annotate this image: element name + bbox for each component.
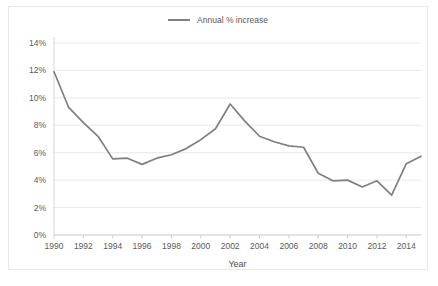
- y-axis-labels-group: 0%2%4%6%8%10%12%14%: [29, 38, 46, 240]
- axis-lines-group: [54, 37, 421, 235]
- x-axis-tick-label: 2008: [309, 241, 328, 251]
- plot-area: 0%2%4%6%8%10%12%14% 19901992199419961998…: [9, 7, 429, 271]
- y-axis-tick-label: 4%: [34, 175, 47, 185]
- x-axis-tick-label: 2014: [397, 241, 416, 251]
- y-axis-tick-label: 10%: [29, 93, 46, 103]
- tickmarks-group: [54, 235, 406, 239]
- x-axis-tick-label: 1996: [133, 241, 152, 251]
- x-axis-tick-label: 2012: [367, 241, 386, 251]
- line-chart-svg: 0%2%4%6%8%10%12%14% 19901992199419961998…: [9, 7, 429, 271]
- x-axis-tick-label: 1992: [74, 241, 93, 251]
- x-axis-tick-label: 1998: [162, 241, 181, 251]
- x-axis-tick-label: 1990: [45, 241, 64, 251]
- x-axis-tick-label: 2002: [221, 241, 240, 251]
- data-series-group: [54, 72, 421, 195]
- y-axis-tick-label: 14%: [29, 38, 46, 48]
- gridlines-group: [54, 43, 421, 235]
- series-line-annual-increase: [54, 72, 421, 195]
- x-axis-labels-group: 1990199219941996199820002002200420062008…: [45, 241, 417, 251]
- x-axis-title: Year: [228, 259, 246, 269]
- y-axis-tick-label: 12%: [29, 65, 46, 75]
- x-axis-tick-label: 2010: [338, 241, 357, 251]
- x-axis-tick-label: 1994: [103, 241, 122, 251]
- y-axis-tick-label: 0%: [34, 230, 47, 240]
- x-axis-tick-label: 2006: [279, 241, 298, 251]
- chart-container: Annual % increase 0%2%4%6%8%10%12%14% 19…: [8, 6, 428, 270]
- y-axis-tick-label: 2%: [34, 203, 47, 213]
- y-axis-tick-label: 8%: [34, 120, 47, 130]
- y-axis-tick-label: 6%: [34, 148, 47, 158]
- x-axis-tick-label: 2000: [191, 241, 210, 251]
- x-axis-tick-label: 2004: [250, 241, 269, 251]
